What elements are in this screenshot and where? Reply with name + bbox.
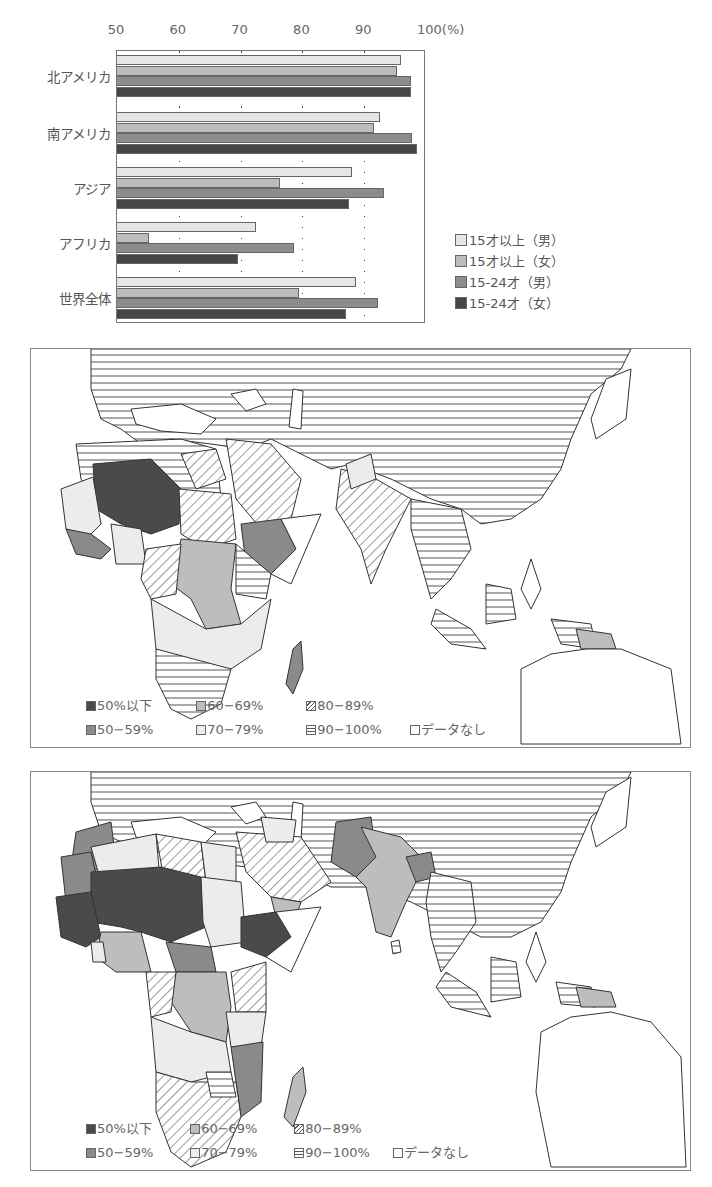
legend-label: データなし	[421, 722, 486, 737]
legend-label: 90−100%	[305, 1145, 370, 1160]
map-lower-svg	[31, 772, 691, 1171]
x-tick-label: 100(%)	[417, 22, 464, 37]
bar	[117, 167, 352, 177]
category-label: アジア	[73, 178, 111, 198]
bar	[117, 277, 356, 287]
bar	[117, 66, 397, 76]
chart-plot-area	[116, 50, 425, 323]
legend-swatch	[455, 255, 467, 267]
legend-swatch-60-69	[196, 701, 206, 711]
map-upper-legend: 50%以下 60−69% 80−89% 50−59% 70−79% 90−100…	[86, 695, 486, 738]
legend-label: 60−69%	[207, 698, 263, 713]
legend-swatch-70-79	[196, 725, 206, 735]
x-tick-label: 80	[293, 22, 310, 37]
legend-label: 15才以上（女）	[469, 254, 564, 269]
category-label: アフリカ	[59, 233, 111, 253]
legend-label: 60−69%	[201, 1121, 257, 1136]
legend-label: 15-24才（男）	[469, 275, 559, 290]
legend-item: 15-24才（女）	[455, 293, 559, 312]
legend-label: 80−89%	[317, 698, 373, 713]
bar	[117, 254, 238, 264]
bar	[117, 309, 346, 319]
category-label: 北アメリカ	[47, 66, 111, 86]
map-lower: 50%以下 60−69% 80−89% 50−59% 70−79% 90−100…	[30, 771, 691, 1171]
legend-label: 70−79%	[201, 1145, 257, 1160]
bar	[117, 55, 401, 65]
bar	[117, 222, 256, 232]
legend-label: 90−100%	[317, 722, 382, 737]
legend-label: 50%以下	[97, 1121, 152, 1136]
bar	[117, 298, 378, 308]
legend-swatch-60-69	[190, 1124, 200, 1134]
map-upper: 50%以下 60−69% 80−89% 50−59% 70−79% 90−100…	[30, 348, 691, 748]
legend-swatch	[455, 297, 467, 309]
legend-swatch-90-100	[294, 1148, 304, 1158]
bar	[117, 133, 412, 143]
legend-item: 15才以上（男）	[455, 230, 564, 249]
legend-swatch-70-79	[190, 1148, 200, 1158]
legend-label: 50%以下	[97, 698, 152, 713]
x-tick-label: 50	[108, 22, 125, 37]
legend-swatch-no-data	[410, 725, 420, 735]
legend-item: 15-24才（男）	[455, 272, 559, 291]
x-tick-label: 90	[355, 22, 372, 37]
legend-label: 15才以上（男）	[469, 233, 564, 248]
legend-swatch-80-89	[294, 1124, 304, 1134]
legend-item: 15才以上（女）	[455, 251, 564, 270]
legend-swatch-50-59	[86, 1148, 96, 1158]
bar	[117, 123, 374, 133]
bar	[117, 188, 384, 198]
bar	[117, 112, 380, 122]
legend-swatch-le50	[86, 701, 96, 711]
legend-label: 70−79%	[207, 722, 263, 737]
legend-swatch-90-100	[306, 725, 316, 735]
bar	[117, 178, 280, 188]
bar	[117, 243, 294, 253]
legend-swatch-50-59	[86, 725, 96, 735]
legend-label: 50−59%	[97, 722, 153, 737]
category-label: 南アメリカ	[47, 123, 111, 143]
legend-label: 15-24才（女）	[469, 296, 559, 311]
map-lower-legend: 50%以下 60−69% 80−89% 50−59% 70−79% 90−100…	[86, 1118, 469, 1161]
map-upper-svg	[31, 349, 691, 748]
bar	[117, 144, 417, 154]
legend-label: データなし	[404, 1145, 469, 1160]
bar	[117, 233, 149, 243]
legend-label: 80−89%	[305, 1121, 361, 1136]
legend-swatch	[455, 234, 467, 246]
x-tick-label: 60	[170, 22, 187, 37]
legend-label: 50−59%	[97, 1145, 153, 1160]
x-tick-label: 70	[231, 22, 248, 37]
legend-swatch-le50	[86, 1124, 96, 1134]
category-label: 世界全体	[59, 288, 111, 308]
bar	[117, 288, 299, 298]
legend-swatch	[455, 276, 467, 288]
legend-swatch-80-89	[306, 701, 316, 711]
legend-swatch-no-data	[393, 1148, 403, 1158]
bar	[117, 199, 349, 209]
bar	[117, 87, 411, 97]
bar	[117, 76, 411, 86]
